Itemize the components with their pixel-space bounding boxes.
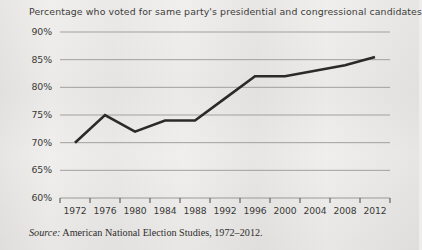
y-tick-label: 75% <box>22 109 52 120</box>
y-tick-label: 80% <box>22 81 52 92</box>
source-label: Source: <box>29 227 60 238</box>
x-tick-label: 1988 <box>178 205 212 216</box>
y-tick-label: 90% <box>22 26 52 37</box>
x-tick-label: 1992 <box>208 205 242 216</box>
x-tick-label: 2004 <box>298 205 332 216</box>
data-line-series-1 <box>75 57 375 143</box>
y-tick-label: 60% <box>22 192 52 203</box>
y-tick-label: 85% <box>22 54 52 65</box>
source-note: Source: American National Election Studi… <box>29 227 263 238</box>
y-tick-label: 65% <box>22 164 52 175</box>
x-tick-label: 1972 <box>58 205 92 216</box>
source-text: American National Election Studies, 1972… <box>62 227 262 238</box>
x-tick-label: 1980 <box>118 205 152 216</box>
x-tick-label: 2000 <box>268 205 302 216</box>
x-tick-label: 1996 <box>238 205 272 216</box>
x-tick-label: 2008 <box>328 205 362 216</box>
x-tick-label: 1976 <box>88 205 122 216</box>
x-tick-label: 2012 <box>358 205 392 216</box>
x-tick-group <box>60 198 390 203</box>
gridline-group <box>60 32 390 198</box>
y-tick-label: 70% <box>22 137 52 148</box>
x-tick-label: 1984 <box>148 205 182 216</box>
